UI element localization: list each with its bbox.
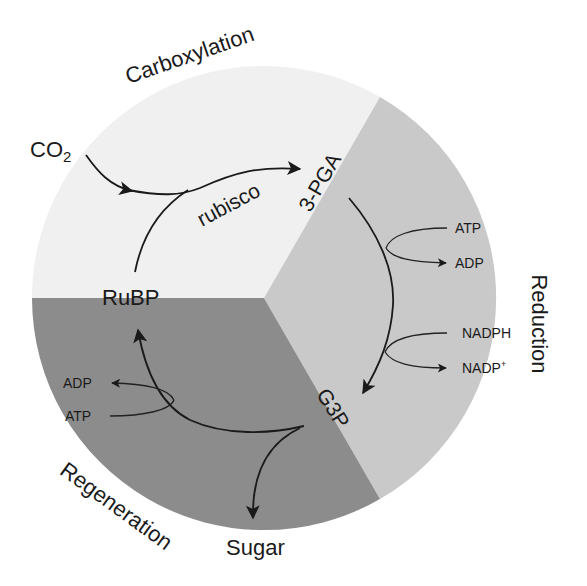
co2-label: CO2 — [30, 137, 71, 165]
reduction-nadp-label: NADP+ — [462, 359, 506, 376]
reduction-adp-label: ADP — [455, 255, 484, 271]
molecule-label-rubp: RuBP — [102, 285, 159, 310]
calvin-cycle-diagram: Carboxylation Reduction Regeneration CO2… — [0, 0, 587, 586]
phase-label-reduction: Reduction — [527, 274, 552, 373]
regeneration-atp-label: ATP — [65, 408, 91, 424]
regeneration-adp-label: ADP — [63, 375, 92, 391]
reduction-nadph-label: NADPH — [462, 325, 511, 341]
reduction-atp-label: ATP — [455, 220, 481, 236]
molecule-label-sugar: Sugar — [226, 535, 285, 560]
